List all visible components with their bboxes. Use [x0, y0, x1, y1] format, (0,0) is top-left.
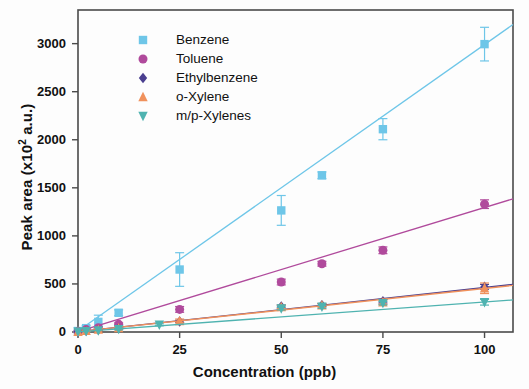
data-point-marker — [138, 91, 147, 100]
y-axis-tick-label: 1000 — [20, 228, 66, 243]
legend-item-label: Benzene — [176, 32, 229, 47]
legend-marker-triangle-down-icon — [128, 109, 158, 123]
regression-line — [78, 285, 513, 331]
chart-legend: BenzeneTolueneEthylbenzeneo-Xylenem/p-Xy… — [128, 30, 258, 125]
regression-line — [78, 300, 513, 332]
legend-item: Ethylbenzene — [128, 68, 258, 87]
data-point-marker — [277, 206, 285, 214]
series-m-p-xylenes — [73, 298, 513, 337]
legend-marker-square-icon — [128, 33, 158, 47]
legend-item-label: m/p-Xylenes — [176, 108, 251, 123]
y-axis-tick-label: 500 — [20, 276, 66, 291]
x-axis-tick-label: 100 — [462, 342, 508, 357]
x-axis-title: Concentration (ppb) — [0, 363, 529, 380]
data-point-marker — [139, 54, 148, 63]
legend-item-label: Ethylbenzene — [176, 70, 258, 85]
regression-line — [78, 199, 513, 332]
x-axis-tick-label: 50 — [258, 342, 304, 357]
legend-item-label: o-Xylene — [176, 89, 229, 104]
data-point-marker — [480, 40, 488, 48]
data-point-marker — [175, 305, 184, 314]
y-axis-title: Peak area (x102 a.u.) — [17, 67, 35, 287]
legend-item: Benzene — [128, 30, 258, 49]
legend-marker-triangle-up-icon — [128, 90, 158, 104]
x-axis-tick-label: 0 — [55, 342, 101, 357]
calibration-scatter-plot — [0, 0, 529, 389]
chart-figure: Peak area (x102 a.u.) Concentration (ppb… — [0, 0, 529, 389]
legend-marker-diamond-icon — [128, 71, 158, 85]
legend-marker-circle-icon — [128, 52, 158, 66]
x-axis-tick-label: 75 — [360, 342, 406, 357]
y-axis-tick-label: 0 — [20, 324, 66, 339]
series-o-xylene — [73, 283, 513, 336]
legend-item: m/p-Xylenes — [128, 106, 258, 125]
legend-item-label: Toluene — [176, 51, 223, 66]
y-axis-tick-label: 2000 — [20, 132, 66, 147]
data-point-marker — [139, 35, 147, 43]
data-point-marker — [318, 171, 326, 179]
y-axis-tick-label: 3000 — [20, 36, 66, 51]
data-point-marker — [175, 265, 183, 273]
data-point-marker — [277, 278, 286, 287]
data-point-marker — [114, 309, 122, 317]
y-axis-tick-label: 2500 — [20, 84, 66, 99]
data-point-marker — [379, 125, 387, 133]
data-point-marker — [480, 200, 489, 209]
legend-item: o-Xylene — [128, 87, 258, 106]
data-point-marker — [378, 246, 387, 255]
data-point-marker — [138, 111, 147, 120]
legend-item: Toluene — [128, 49, 258, 68]
y-axis-tick-label: 1500 — [20, 180, 66, 195]
data-point-marker — [139, 72, 147, 82]
data-point-marker — [317, 259, 326, 268]
x-axis-tick-label: 25 — [157, 342, 203, 357]
